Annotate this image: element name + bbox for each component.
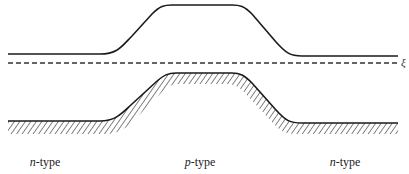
fermi-level-symbol: ξ xyxy=(401,56,406,68)
valence-band-hatching xyxy=(8,73,398,134)
region-label-n-left: n-type xyxy=(30,155,61,170)
region-label-p-center: p-type xyxy=(185,155,216,170)
region-label-n-right: n-type xyxy=(330,155,361,170)
region-label-suffix: -type xyxy=(336,155,361,169)
region-label-suffix: -type xyxy=(191,155,216,169)
conduction-band-curve xyxy=(8,5,398,56)
band-diagram xyxy=(0,0,409,174)
region-label-suffix: -type xyxy=(36,155,61,169)
